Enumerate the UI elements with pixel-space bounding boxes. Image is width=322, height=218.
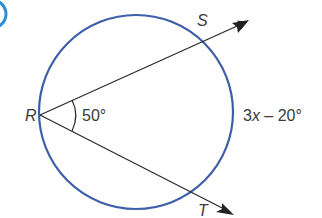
circle — [39, 15, 233, 209]
point-label-s: S — [197, 12, 208, 29]
arc-label: 3x – 20° — [243, 107, 302, 124]
ray-rs — [40, 22, 246, 115]
geometry-diagram: R S T 50° 3x – 20° — [0, 0, 322, 218]
angle-arc — [72, 100, 76, 131]
problem-badge-icon — [0, 0, 6, 28]
ray-rt — [40, 115, 230, 212]
arrow-t-icon — [216, 203, 234, 215]
point-label-t: T — [198, 202, 209, 218]
point-label-r: R — [25, 107, 37, 124]
angle-label: 50° — [82, 107, 106, 124]
